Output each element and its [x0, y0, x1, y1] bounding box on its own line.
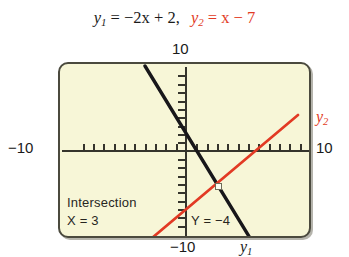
window-label-xmax: 10 — [316, 139, 333, 156]
intersection-label: Intersection — [67, 195, 137, 210]
equation-caption: y1 = −2x + 2, y2 = x − 7 — [0, 8, 349, 28]
calculator-screen: Intersection X = 3 Y = −4 — [58, 62, 311, 238]
graphing-calculator-figure: y1 = −2x + 2, y2 = x − 7 — [0, 0, 349, 257]
window-label-ymax: 10 — [172, 40, 189, 57]
equation-y2-expression: = x − 7 — [208, 8, 256, 27]
plot-lines — [60, 64, 311, 238]
equation-y1-variable: y — [94, 8, 101, 27]
equation-y1-subscript: 1 — [101, 16, 106, 28]
curve-label-y2-subscript: 2 — [323, 116, 328, 127]
curve-label-y1: y1 — [240, 238, 252, 257]
equation-y1-expression: = −2x + 2, — [111, 8, 180, 27]
intersection-y-value: Y = −4 — [191, 213, 230, 228]
window-label-xmin: −10 — [8, 139, 33, 156]
equation-y2-subscript: 2 — [198, 16, 203, 28]
screen-plot-area: Intersection X = 3 Y = −4 — [60, 64, 309, 236]
intersection-x-value: X = 3 — [67, 213, 99, 228]
window-label-ymin: −10 — [170, 238, 195, 255]
curve-label-y2: y2 — [316, 108, 328, 127]
intersection-cursor-marker — [215, 183, 222, 190]
curve-label-y1-subscript: 1 — [247, 246, 252, 257]
equation-y1: y1 = −2x + 2, — [94, 8, 184, 27]
equation-y2: y2 = x − 7 — [191, 8, 255, 27]
